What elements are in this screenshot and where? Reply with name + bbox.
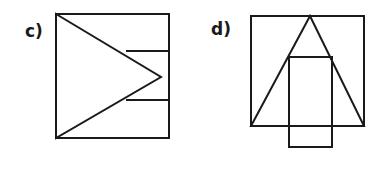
figure-c-inner-triangle bbox=[56, 14, 161, 138]
figure-d-group bbox=[251, 16, 364, 147]
figure-d-overlapping-rectangle bbox=[289, 57, 332, 147]
figure-c-outer-square bbox=[56, 14, 169, 138]
figure-c-group bbox=[56, 14, 169, 138]
figure-d-outer-square bbox=[251, 16, 364, 126]
geometry-drawing bbox=[0, 0, 388, 185]
figure-canvas: c) d) bbox=[0, 0, 388, 185]
figure-d-inner-triangle bbox=[251, 16, 364, 126]
